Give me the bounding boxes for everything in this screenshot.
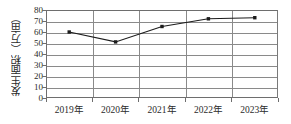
- y-axis-tick-mark: [42, 21, 46, 22]
- y-axis-tick-label: 60: [24, 28, 43, 37]
- x-axis-tick-mark: [46, 98, 47, 102]
- series-markers: [68, 16, 257, 44]
- x-axis-tick-mark: [231, 98, 232, 102]
- y-axis-tick-label: 50: [24, 39, 43, 48]
- y-axis-tick-label: 70: [24, 17, 43, 26]
- data-point-marker: [160, 25, 163, 28]
- y-axis-tick-label: 80: [24, 6, 43, 15]
- x-axis-tick-label: 2021年: [139, 103, 185, 119]
- x-axis-tick-label: 2020年: [92, 103, 138, 119]
- data-series-layer: [46, 10, 278, 98]
- y-axis-tick-mark: [42, 32, 46, 33]
- data-point-marker: [253, 16, 256, 19]
- data-point-marker: [68, 30, 71, 33]
- x-axis-tick-label: 2019年: [46, 103, 92, 119]
- y-axis-tick-label: 30: [24, 61, 43, 70]
- y-axis-title: 发生面积（万亩）: [9, 6, 24, 102]
- line-chart: 发生面积（万亩） 01020304050607080 2019年2020年202…: [0, 0, 291, 124]
- y-axis-tick-labels: 01020304050607080: [24, 10, 43, 98]
- y-axis-tick-label: 10: [24, 83, 43, 92]
- y-axis-tick-mark: [42, 87, 46, 88]
- y-axis-tick-mark: [42, 10, 46, 11]
- y-axis-tick-label: 40: [24, 50, 43, 59]
- y-axis-tick-label: 20: [24, 72, 43, 81]
- data-point-marker: [114, 40, 117, 43]
- x-axis-tick-labels: 2019年2020年2021年2022年2023年: [46, 103, 278, 119]
- series-line: [69, 18, 255, 42]
- x-axis-tick-label: 2022年: [185, 103, 231, 119]
- y-axis-tick-mark: [42, 76, 46, 77]
- y-axis-tick-mark: [42, 43, 46, 44]
- y-axis-tick-mark: [42, 65, 46, 66]
- y-axis-tick-label: 0: [24, 94, 43, 103]
- data-point-marker: [207, 17, 210, 20]
- y-axis-tick-mark: [42, 54, 46, 55]
- x-axis-tick-mark: [92, 98, 93, 102]
- x-axis-tick-mark: [278, 98, 279, 102]
- x-axis-tick-label: 2023年: [232, 103, 278, 119]
- x-axis-tick-mark: [138, 98, 139, 102]
- x-axis-tick-mark: [185, 98, 186, 102]
